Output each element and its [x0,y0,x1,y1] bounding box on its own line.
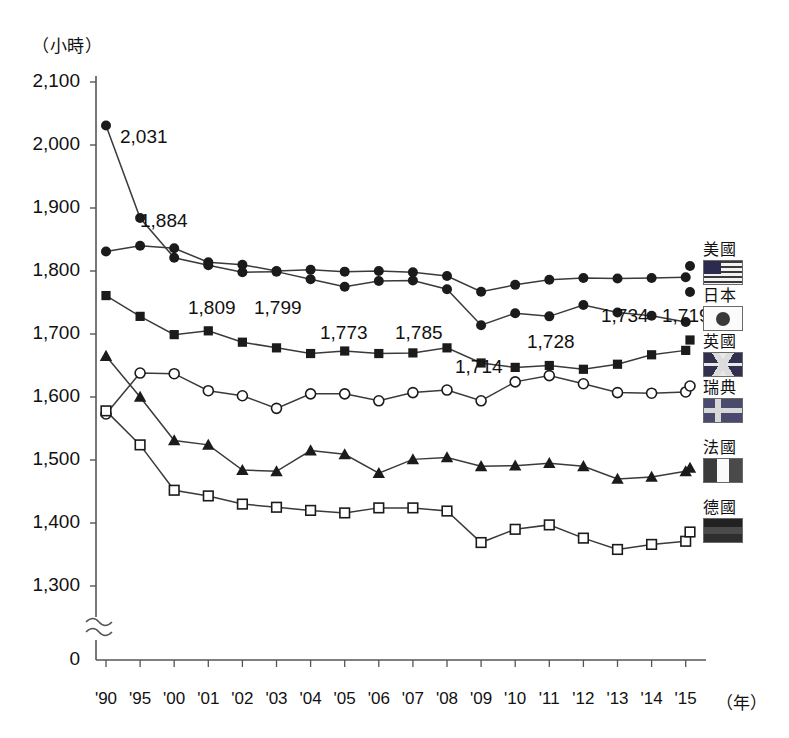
series-0 [101,241,691,297]
y-tick-label: 1,300 [6,574,80,596]
legend-label: 法國 [703,438,787,458]
legend-item-瑞典[interactable]: 瑞典 [703,378,787,423]
series-3 [101,368,691,419]
y-tick-label: 2,000 [6,133,80,155]
y-tick-label: 1,900 [6,196,80,218]
series-4 [100,350,692,484]
series-5 [101,406,690,554]
y-tick-label: 1,800 [6,259,80,281]
data-value-label: 1,773 [320,322,368,344]
legend-label: 英國 [703,332,787,352]
y-tick-label: 2,100 [6,70,80,92]
us-flag-icon [703,260,743,285]
data-value-label: 1,728 [527,331,575,353]
jp-flag-icon [703,306,743,331]
y-tick-label: 1,400 [6,511,80,533]
data-value-label: 1,734 [601,305,649,327]
legend-label: 日本 [703,286,787,306]
data-value-label: 2,031 [120,126,168,148]
legend-label: 美國 [703,240,787,260]
se-flag-icon [703,398,743,423]
legend-item-英國[interactable]: 英國 [703,332,787,377]
legend-marker-open-circle [685,381,695,391]
fr-flag-icon [703,458,743,483]
chart-container: （小時） 2,1002,0001,9001,8001,7001,6001,500… [0,0,789,738]
legend-item-法國[interactable]: 法國 [703,438,787,483]
legend-marker-filled-circle [685,261,695,271]
y-tick-label: 1,600 [6,385,80,407]
legend-item-德國[interactable]: 德國 [703,498,787,543]
legend-marker-filled-square [685,335,694,344]
data-value-label: 1,714 [455,356,503,378]
legend-item-美國[interactable]: 美國 [703,240,787,285]
legend-marker-open-square [685,527,695,537]
data-value-label: 1,809 [188,297,236,319]
data-value-label: 1,799 [254,297,302,319]
legend-item-日本[interactable]: 日本 [703,286,787,331]
data-value-label: 1,884 [140,210,188,232]
y-tick-label: 1,500 [6,448,80,470]
legend-label: 瑞典 [703,378,787,398]
uk-flag-icon [703,352,743,377]
chart-plot-area [0,0,789,738]
legend-marker-filled-circle [685,287,695,297]
y-tick-label: 0 [6,648,80,670]
y-tick-label: 1,700 [6,322,80,344]
legend-label: 德國 [703,498,787,518]
data-value-label: 1,785 [395,322,443,344]
x-axis-unit-label: （年） [716,689,767,714]
x-tick-label: '15 [666,689,706,709]
de-flag-icon [703,518,743,543]
